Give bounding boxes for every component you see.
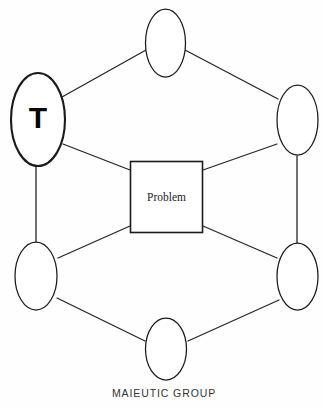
node-lower-left[interactable] (15, 242, 57, 310)
node-bottom-ellipse[interactable] (146, 318, 187, 380)
node-upper-right-ellipse[interactable] (277, 85, 318, 155)
node-top[interactable] (146, 9, 186, 77)
edge-top-to-upper-right (185, 50, 278, 99)
diagram-canvas: Problem T (0, 0, 325, 409)
edge-lower-right-to-center (203, 226, 277, 258)
edge-upper-right-to-center (203, 144, 277, 170)
node-bottom[interactable] (146, 318, 187, 380)
edge-lower-left-to-center (58, 226, 130, 258)
center-node[interactable]: Problem (131, 162, 203, 233)
node-lower-right[interactable] (277, 243, 318, 310)
node-upper-right[interactable] (277, 85, 318, 155)
edge-bottom-to-lower-left (57, 298, 145, 341)
diagram-caption: MAIEUTIC GROUP (112, 387, 216, 399)
node-lower-right-ellipse[interactable] (277, 243, 318, 310)
center-square-label: Problem (147, 191, 186, 203)
edge-upper-left-to-top (62, 50, 146, 97)
node-upper-left-label: T (29, 101, 47, 134)
node-upper-left[interactable]: T (11, 73, 65, 166)
edge-lower-right-to-bottom (188, 300, 279, 341)
node-top-ellipse[interactable] (146, 9, 186, 77)
edge-upper-left-to-center (63, 144, 130, 170)
maieutic-group-diagram: Problem T (0, 0, 325, 409)
node-lower-left-ellipse[interactable] (15, 242, 57, 310)
